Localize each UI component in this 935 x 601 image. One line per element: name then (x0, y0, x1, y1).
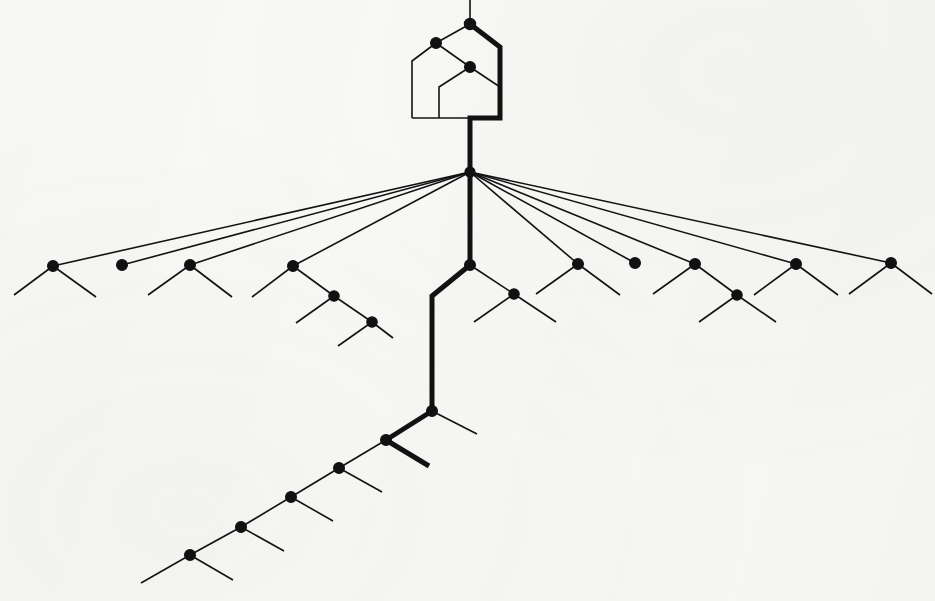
tree-node-r5 (791, 259, 802, 270)
tree-node-d4 (185, 550, 196, 561)
tree-node-r1 (509, 289, 519, 299)
diagram-background (0, 0, 935, 601)
tree-diagram-canvas (0, 0, 935, 601)
tree-node-d3 (236, 522, 247, 533)
tree-node-f3 (185, 260, 196, 271)
tree-node-r3 (630, 258, 641, 269)
tree-node-n_hub (465, 167, 475, 177)
tree-node-d2 (286, 492, 297, 503)
tree-node-n_top (464, 18, 475, 29)
tree-node-d1 (334, 463, 345, 474)
tree-node-f4 (288, 261, 299, 272)
tree-node-m1 (427, 406, 438, 417)
tree-node-f4c (367, 317, 377, 327)
tree-node-r2 (573, 259, 584, 270)
tree-node-r4b (732, 290, 742, 300)
tree-diagram-figure: Hierarchical branching tree diagram (0, 0, 935, 601)
tree-node-f1 (48, 261, 59, 272)
tree-node-f2 (117, 260, 128, 271)
tree-node-r6 (886, 258, 897, 269)
tree-node-r4 (690, 259, 701, 270)
tree-node-f4b (329, 291, 339, 301)
tree-node-n_upper_left (431, 38, 442, 49)
tree-node-c1 (465, 260, 476, 271)
tree-node-m2 (381, 435, 392, 446)
tree-node-n_upper_mid (465, 62, 476, 73)
